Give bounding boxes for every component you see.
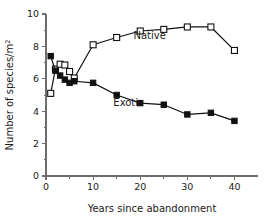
y-tick-label: 2	[33, 138, 39, 149]
y-axis-title: Number of species/m2	[4, 40, 16, 151]
series-line-exotic	[51, 56, 235, 121]
data-point-exotic	[48, 53, 53, 58]
data-point-native	[231, 47, 237, 53]
y-tick-label: 8	[33, 41, 39, 52]
series-label-native: Native	[133, 30, 165, 41]
data-point-exotic	[185, 112, 190, 117]
y-tick-label: 6	[33, 73, 39, 84]
data-point-exotic	[232, 118, 237, 123]
data-point-exotic	[208, 110, 213, 115]
data-point-exotic	[161, 102, 166, 107]
series-label-exotic: Exotic	[113, 97, 143, 108]
chart-canvas: 0246810010203040 NativeExotic Years sinc…	[0, 0, 267, 220]
series-annotations: NativeExotic	[113, 30, 166, 107]
x-tick-label: 0	[43, 181, 49, 192]
x-tick-label: 30	[181, 181, 193, 192]
y-tick-label: 10	[27, 8, 39, 19]
data-point-native	[67, 69, 73, 75]
data-point-exotic	[90, 80, 95, 85]
data-point-native	[184, 24, 190, 30]
x-axis-title: Years since abandonment	[87, 203, 217, 214]
x-tick-label: 10	[87, 181, 99, 192]
data-point-native	[48, 90, 54, 96]
data-point-exotic	[72, 79, 77, 84]
x-tick-label: 40	[228, 181, 240, 192]
y-tick-label: 4	[33, 106, 39, 117]
data-point-native	[114, 34, 120, 40]
data-point-native	[208, 24, 214, 30]
data-point-native	[90, 42, 96, 48]
data-point-native	[62, 62, 68, 68]
species-richness-chart: 0246810010203040 NativeExotic Years sinc…	[0, 0, 267, 220]
y-tick-label: 0	[33, 170, 39, 181]
x-tick-label: 20	[134, 181, 146, 192]
